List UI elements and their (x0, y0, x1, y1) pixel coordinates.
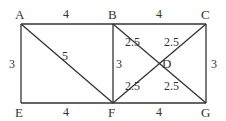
length-gd: 2.5 (164, 79, 179, 93)
vertex-label-g: G (201, 105, 210, 120)
length-af: 5 (62, 49, 68, 63)
edge-af (21, 24, 113, 103)
length-ae: 3 (9, 57, 15, 71)
length-bf: 3 (116, 57, 122, 71)
geometry-diagram: A B C D E F G 4 4 4 4 3 3 3 5 2.5 2.5 2.… (0, 0, 226, 121)
length-bd: 2.5 (125, 35, 140, 49)
length-cd: 2.5 (164, 35, 179, 49)
length-ab: 4 (63, 7, 69, 21)
length-cg: 3 (211, 57, 217, 71)
length-fg: 4 (156, 105, 162, 119)
vertex-label-f: F (108, 105, 115, 120)
vertex-label-d: D (162, 56, 171, 71)
vertex-label-a: A (15, 7, 25, 22)
vertex-label-b: B (108, 7, 117, 22)
length-ef: 4 (63, 105, 69, 119)
vertex-label-c: C (201, 7, 210, 22)
length-bc: 4 (156, 7, 162, 21)
length-fd: 2.5 (125, 79, 140, 93)
vertex-label-e: E (15, 105, 23, 120)
